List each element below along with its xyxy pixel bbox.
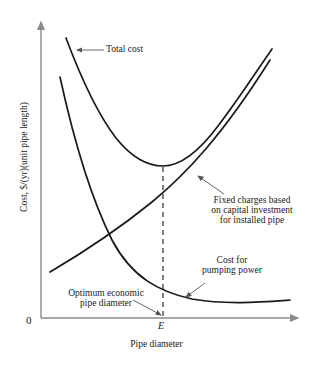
x-tick-label-E: E (158, 320, 164, 331)
annotation-fixed-charges-line-2: on capital investment (193, 205, 311, 215)
annotation-optimum-diameter-line-1: Optimum economic (54, 288, 158, 298)
leader-fixed-charges (198, 176, 224, 194)
annotation-optimum-diameter: Optimum economic pipe diameter (54, 288, 158, 308)
annotation-fixed-charges-line-3: for installed pipe (193, 215, 311, 225)
annotation-pumping-power-line-1: Cost for (189, 255, 275, 265)
chart-svg (0, 0, 313, 366)
annotation-fixed-charges: Fixed charges based on capital investmen… (193, 195, 311, 225)
x-axis-label: Pipe diameter (0, 339, 313, 349)
y-axis-label: Cost, $/(yr)(unit pipe length) (19, 77, 29, 237)
figure-container: Cost, $/(yr)(unit pipe length) Pipe diam… (0, 0, 313, 366)
annotation-pumping-power-line-2: pumping power (189, 265, 275, 275)
annotation-fixed-charges-line-1: Fixed charges based (193, 195, 311, 205)
leader-pumping-power (186, 283, 205, 297)
annotation-pumping-power: Cost for pumping power (189, 255, 275, 275)
axis-origin-label: 0 (26, 314, 32, 326)
annotation-total-cost: Total cost (106, 44, 143, 55)
annotation-optimum-diameter-line-2: pipe diameter (54, 298, 158, 308)
